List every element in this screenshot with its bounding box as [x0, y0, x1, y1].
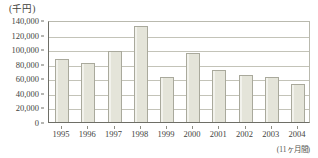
y-axis-tick-label: 140,000: [11, 17, 39, 26]
x-axis: 1995199619971998199920002001200220032004: [48, 126, 310, 140]
x-axis-tick-mark: [218, 126, 219, 129]
x-axis-tick-label: 1996: [79, 130, 96, 139]
bar: [291, 84, 305, 122]
x-axis-tick-mark: [114, 126, 115, 129]
y-axis-tick-mark: [41, 50, 44, 51]
y-axis-tick-label: 60,000: [16, 75, 39, 84]
bar: [265, 77, 279, 122]
y-axis-tick-label: 20,000: [16, 104, 39, 113]
bar: [212, 70, 226, 122]
y-axis-tick-mark: [41, 64, 44, 65]
bar: [186, 53, 200, 122]
bar-series: [49, 22, 309, 122]
bar: [239, 75, 253, 122]
x-axis-tick-label: 2003: [262, 130, 279, 139]
x-axis-tick-label: 1995: [53, 130, 70, 139]
bar: [134, 26, 148, 122]
y-axis-tick-mark: [41, 79, 44, 80]
x-axis-tick-label: 1999: [157, 130, 174, 139]
y-axis-tick-mark: [41, 108, 44, 109]
y-axis-tick-mark: [41, 93, 44, 94]
bar: [81, 63, 95, 122]
bar: [108, 51, 122, 122]
y-axis-tick-label: 40,000: [16, 90, 39, 99]
y-axis-tick-label: 120,000: [11, 31, 39, 40]
x-axis-tick-mark: [192, 126, 193, 129]
x-axis-tick-label: 1997: [105, 130, 122, 139]
bar: [160, 77, 174, 122]
x-axis-tick-mark: [271, 126, 272, 129]
x-axis-tick-mark: [166, 126, 167, 129]
x-axis-tick-label: 2000: [184, 130, 201, 139]
y-axis-tick-mark: [41, 123, 44, 124]
x-axis-tick-label: 2001: [210, 130, 227, 139]
y-axis-unit-label: (千円): [9, 1, 35, 15]
chart-footnote: (11ヶ月間): [277, 143, 310, 154]
x-axis-tick-mark: [245, 126, 246, 129]
y-axis: 140,000120,000100,00080,00060,00040,0002…: [0, 21, 44, 123]
x-axis-tick-mark: [61, 126, 62, 129]
y-axis-tick-mark: [41, 35, 44, 36]
y-axis-tick-mark: [41, 21, 44, 22]
bar: [55, 59, 69, 122]
x-axis-tick-label: 1998: [131, 130, 148, 139]
x-axis-tick-mark: [140, 126, 141, 129]
bar-chart: (千円) 140,000120,000100,00080,00060,00040…: [0, 0, 318, 158]
x-axis-tick-label: 2002: [236, 130, 253, 139]
y-axis-tick-label: 100,000: [11, 46, 39, 55]
y-axis-tick-label: 80,000: [16, 60, 39, 69]
x-axis-tick-label: 2004: [288, 130, 305, 139]
plot-area: [48, 21, 310, 123]
x-axis-tick-mark: [297, 126, 298, 129]
x-axis-tick-mark: [87, 126, 88, 129]
y-axis-tick-label: 0: [35, 119, 39, 128]
